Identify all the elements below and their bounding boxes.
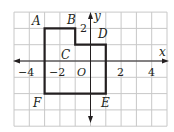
coordinate-grid-figure: x y O −4 −2 2 4 2 A B C D E F (0, 0, 174, 132)
y-axis-up-arrow-icon (88, 12, 93, 19)
vertex-label-F: F (32, 96, 42, 110)
y-axis-down-arrow-icon (88, 116, 93, 123)
x-axis-right-arrow-icon (162, 59, 169, 64)
x-tick-label: −2 (49, 66, 65, 79)
vertex-label-C: C (61, 48, 70, 62)
y-tick-label: 2 (80, 22, 87, 35)
origin-label: O (77, 66, 86, 79)
x-tick-label: 2 (117, 66, 124, 79)
vertex-label-B: B (66, 13, 76, 27)
vertex-label-D: D (97, 27, 108, 41)
y-axis-label: y (93, 9, 101, 23)
grid-svg: x y O −4 −2 2 4 2 A B C D E F (0, 0, 174, 132)
vertex-label-A: A (31, 14, 41, 28)
x-tick-label: 4 (148, 66, 155, 79)
x-axis-label: x (159, 45, 166, 59)
vertex-label-E: E (100, 96, 110, 110)
x-tick-label: −4 (18, 66, 34, 79)
